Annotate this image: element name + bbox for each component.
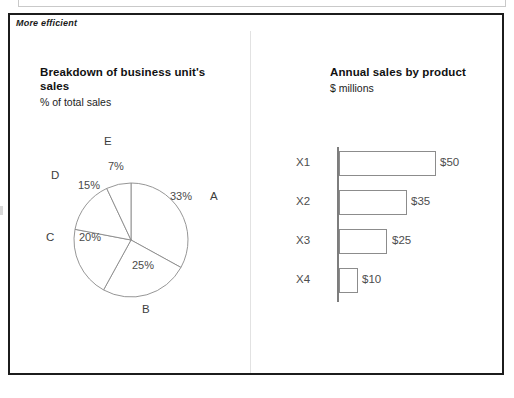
bar-category-label-x4: X4 <box>296 273 310 285</box>
bar-row: X3$25 <box>268 225 508 259</box>
bar-value-label-x2: $35 <box>411 195 430 207</box>
pie-chart-section: Breakdown of business unit's sales % of … <box>32 65 242 365</box>
pie-chart-subtitle: % of total sales <box>40 95 230 109</box>
pie-value-label-a: 33% <box>170 190 192 202</box>
bar-chart-section: Annual sales by product $ millions X1$50… <box>268 65 508 365</box>
panel-divider <box>250 31 251 373</box>
pie-category-label-e: E <box>104 135 112 147</box>
slide-panel: More efficient Breakdown of business uni… <box>8 13 504 375</box>
bar-heading: Annual sales by product $ millions <box>330 65 500 95</box>
pie-category-label-a: A <box>210 190 218 202</box>
bar-row: X4$10 <box>268 264 508 298</box>
clipped-panel-above <box>18 0 506 7</box>
bar-x3 <box>339 229 387 254</box>
pie-value-label-c: 20% <box>79 231 101 243</box>
bar-x4 <box>339 268 358 293</box>
bar-x1 <box>339 151 436 176</box>
bar-row: X1$50 <box>268 147 508 181</box>
bar-value-label-x4: $10 <box>362 273 381 285</box>
bar-category-label-x3: X3 <box>296 234 310 246</box>
pie-heading: Breakdown of business unit's sales % of … <box>40 65 230 109</box>
bar-chart-plot: X1$50X2$35X3$25X4$10 <box>268 147 508 307</box>
pie-category-label-b: B <box>142 303 150 315</box>
pie-category-label-d: D <box>51 169 59 181</box>
bar-category-label-x1: X1 <box>296 156 310 168</box>
bar-chart-subtitle: $ millions <box>330 81 500 95</box>
bar-chart-title: Annual sales by product <box>330 65 500 79</box>
left-edge-artifact <box>0 206 3 215</box>
pie-chart-plot: 33%25%20%15%7% ABCDE <box>32 135 242 350</box>
pie-chart-svg <box>32 135 242 350</box>
pie-value-label-b: 25% <box>132 259 154 271</box>
slide-corner-label: More efficient <box>16 18 77 28</box>
bar-value-label-x1: $50 <box>440 156 459 168</box>
pie-value-label-e: 7% <box>108 160 124 172</box>
bar-value-label-x3: $25 <box>392 234 411 246</box>
bar-row: X2$35 <box>268 186 508 220</box>
bar-x2 <box>339 190 407 215</box>
pie-category-label-c: C <box>46 231 54 243</box>
bar-category-label-x2: X2 <box>296 195 310 207</box>
pie-value-label-d: 15% <box>78 179 100 191</box>
pie-chart-title: Breakdown of business unit's sales <box>40 65 230 93</box>
